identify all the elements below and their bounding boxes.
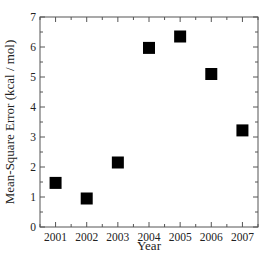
square-marker (112, 157, 124, 169)
y-tick-label: 4 (30, 101, 36, 113)
y-tick-label: 7 (30, 11, 36, 23)
x-tick-label: 2002 (75, 231, 98, 243)
x-tick-label: 2003 (106, 231, 129, 243)
square-marker (50, 177, 62, 189)
y-tick-label: 0 (30, 221, 36, 233)
y-tick-label: 6 (30, 41, 36, 53)
square-marker (81, 193, 93, 205)
y-axis-title: Mean-Square Error (kcal / mol) (2, 40, 17, 205)
y-tick-label: 3 (30, 131, 36, 143)
x-tick-label: 2005 (169, 231, 192, 243)
square-marker (174, 31, 186, 43)
scatter-chart: 2001200220032004200520062007 01234567 Ye… (0, 0, 275, 262)
x-tick-label: 2007 (231, 231, 254, 243)
y-axis-tick-labels: 01234567 (30, 11, 36, 233)
x-axis-title: Year (137, 238, 162, 253)
y-tick-label: 2 (30, 161, 36, 173)
square-marker (143, 42, 155, 54)
x-tick-label: 2001 (44, 231, 67, 243)
data-points (50, 31, 249, 205)
square-marker (236, 124, 248, 136)
y-tick-label: 1 (30, 191, 36, 203)
y-tick-label: 5 (30, 71, 36, 83)
square-marker (205, 68, 217, 80)
x-tick-label: 2006 (200, 231, 223, 243)
